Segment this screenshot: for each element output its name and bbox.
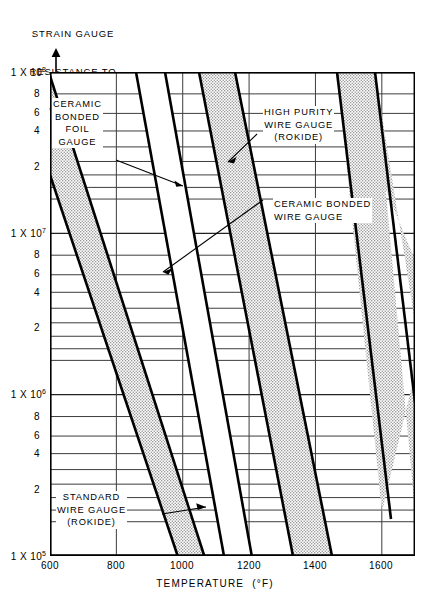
x-tick-600: 600 [28, 560, 72, 571]
x-axis-title: TEMPERATURE (°F) [0, 578, 430, 591]
y-tick-1e8: 1 X 108 [0, 66, 46, 78]
x-axis-title-main: TEMPERATURE [156, 578, 244, 589]
y-tick-4e7: 4 [0, 125, 40, 136]
y-tick-2e7: 2 [0, 161, 40, 172]
annotation-ceramic-bonded-foil-gauge: CERAMIC BONDED FOIL GAUGE [52, 98, 103, 148]
annotation-foil-line-1: CERAMIC [53, 98, 102, 111]
annotation-highpurity-line-1: HIGH PURITY [264, 106, 333, 119]
y-tick-8e5: 8 [0, 411, 40, 422]
x-tick-1000: 1000 [160, 560, 204, 571]
y-tick-6e6: 6 [0, 268, 40, 279]
y-tick-8e7: 8 [0, 88, 40, 99]
annotation-standard-line-3: (ROKIDE) [57, 516, 126, 529]
y-tick-8e6: 8 [0, 249, 40, 260]
annotation-ceramicwire-line-1: CERAMIC BONDED [274, 198, 371, 211]
annotation-foil-line-2: BONDED [53, 111, 102, 124]
annotation-standard-line-1: STANDARD [57, 491, 126, 504]
y-tick-6e5: 6 [0, 430, 40, 441]
y-tick-1e7: 1 X 107 [0, 227, 46, 239]
y-tick-2e5: 2 [0, 484, 40, 495]
y-tick-4e6: 4 [0, 287, 40, 298]
y-tick-4e5: 4 [0, 448, 40, 459]
chart-svg [50, 72, 415, 556]
x-tick-800: 800 [94, 560, 138, 571]
y-tick-1e6: 1 X 106 [0, 388, 46, 400]
annotation-ceramicwire-line-2: WIRE GAUGE [274, 211, 371, 224]
x-tick-1400: 1400 [293, 560, 337, 571]
annotation-ceramic-bonded-wire-gauge: CERAMIC BONDED WIRE GAUGE [273, 198, 372, 223]
annotation-highpurity-line-3: (ROKIDE) [264, 131, 333, 144]
annotation-standard-line-2: WIRE GAUGE [57, 504, 126, 517]
y-axis-arrow-icon [48, 48, 64, 74]
annotation-foil-line-4: GAUGE [53, 136, 102, 149]
x-tick-1200: 1200 [227, 560, 271, 571]
y-tick-6e7: 6 [0, 107, 40, 118]
chart-plot-area [50, 72, 415, 556]
x-axis-title-unit: (°F) [252, 578, 274, 589]
annotation-foil-line-3: FOIL [53, 123, 102, 136]
annotation-highpurity-line-2: WIRE GAUGE [264, 119, 333, 132]
annotation-high-purity-wire-gauge: HIGH PURITY WIRE GAUGE (ROKIDE) [263, 106, 334, 144]
y-axis-title-line-1: STRAIN GAUGE [8, 28, 138, 41]
x-tick-1600: 1600 [359, 560, 403, 571]
y-tick-2e6: 2 [0, 322, 40, 333]
annotation-standard-wire-gauge: STANDARD WIRE GAUGE (ROKIDE) [56, 491, 127, 529]
